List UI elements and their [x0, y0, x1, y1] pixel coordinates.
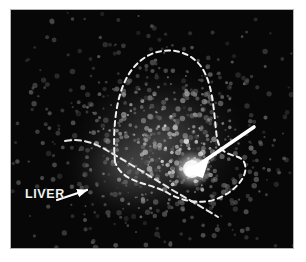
scan-image-frame: LIVER	[11, 10, 293, 248]
scintigram-figure: LIVER	[0, 0, 306, 262]
scan-canvas	[11, 10, 293, 248]
